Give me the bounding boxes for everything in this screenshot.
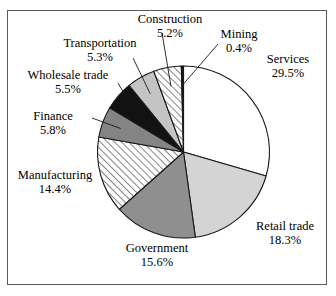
pie-chart-svg bbox=[0, 0, 336, 296]
pie-chart-figure: Construction 5.2% Mining 0.4% Services 2… bbox=[0, 0, 336, 296]
